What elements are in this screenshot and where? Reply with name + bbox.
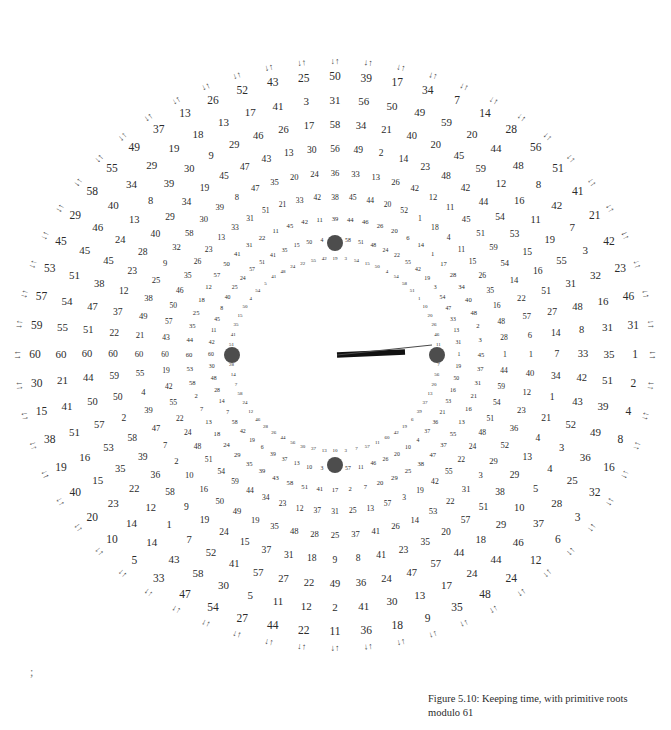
ring-number: 44 xyxy=(267,619,279,631)
ring-number: 18 xyxy=(193,128,205,140)
ring-number: 34 xyxy=(422,84,434,96)
ring-number: 41 xyxy=(316,485,323,492)
ring-arrow-pair: ↓↑ xyxy=(515,110,528,123)
ring-number: 58 xyxy=(165,486,175,497)
ring-number: 1 xyxy=(166,519,171,530)
ring-number: 26 xyxy=(194,257,202,266)
ring-number: 36 xyxy=(356,577,367,588)
ring-number: 49 xyxy=(129,141,141,153)
ring-arrow-pair: ↓↑ xyxy=(71,521,84,534)
ring-number: 40 xyxy=(151,228,161,239)
ring-number: 15 xyxy=(36,405,48,417)
ring-number: 37 xyxy=(262,544,272,555)
ring-number: 57 xyxy=(431,558,442,569)
ring-number: 47 xyxy=(251,183,260,193)
ring-number: 59 xyxy=(441,116,453,128)
ring-number: 1 xyxy=(503,350,507,359)
ring-number: 50 xyxy=(329,70,341,82)
ring-number: 7 xyxy=(187,534,192,545)
ring-number: 60 xyxy=(82,348,93,359)
ring-number: 46 xyxy=(253,130,264,141)
ring-number: 16 xyxy=(79,451,91,463)
ring-number: 47 xyxy=(445,305,451,311)
ring-number: 51 xyxy=(479,501,489,512)
ring-number: 9 xyxy=(208,150,213,161)
double-arrow-icon: ↓↑ xyxy=(297,57,307,68)
ring-number: 34 xyxy=(262,493,270,502)
ring-number: 57 xyxy=(214,271,221,278)
ring-number: 45 xyxy=(55,235,67,247)
ring-arrow-pair: ↓↑ xyxy=(200,617,212,630)
ring-number: 13 xyxy=(217,233,225,242)
ring-number: 38 xyxy=(495,486,505,497)
ring-number: 57 xyxy=(461,514,471,525)
figure-caption: Figure 5.10: Keeping time, with primitiv… xyxy=(428,692,644,720)
ring-number: 24 xyxy=(469,442,477,451)
ring-number: 55 xyxy=(170,398,178,407)
ring-number: 48 xyxy=(572,301,583,312)
ring-number: 32 xyxy=(589,486,601,498)
ring-number: 20 xyxy=(391,227,398,234)
ring-number: 7 xyxy=(570,221,576,233)
ring-number: 35 xyxy=(487,286,495,295)
ring-number: 8 xyxy=(235,192,239,202)
ring-number: 3 xyxy=(479,336,483,343)
ring-number: 19 xyxy=(200,514,210,525)
ring-number: 3 xyxy=(402,493,406,502)
ring-number: 19 xyxy=(249,437,255,443)
ring-number: 29 xyxy=(165,211,175,222)
ring-number: 17 xyxy=(332,486,339,493)
double-arrow-icon: ↓↑ xyxy=(53,496,66,509)
ring-number: 52 xyxy=(566,419,577,430)
ring-number: 42 xyxy=(209,339,215,345)
ring-number: 23 xyxy=(615,262,627,274)
ring-number: 42 xyxy=(322,256,328,261)
ring-number: 50 xyxy=(113,391,123,402)
double-arrow-icon: ↓↑ xyxy=(263,61,274,73)
ring-number: 16 xyxy=(465,405,472,412)
ring-number: 42 xyxy=(394,430,400,435)
ring-number: 60 xyxy=(29,348,41,360)
ring-number: 9 xyxy=(163,258,167,268)
double-arrow-icon: ↓↑ xyxy=(619,229,632,241)
ring-number: 49 xyxy=(139,311,148,321)
ring-number: 15 xyxy=(365,261,371,266)
ring-number: 7 xyxy=(200,405,204,412)
ring-number: 21 xyxy=(541,412,551,423)
ring-number: 4 xyxy=(626,405,632,417)
ring-number: 19 xyxy=(55,461,67,473)
ring-arrow-pair: ↓↑ xyxy=(263,61,274,73)
ring-number: 48 xyxy=(211,375,217,381)
ring-number: 50 xyxy=(223,260,230,267)
ring-arrow-pair: ↓↑ xyxy=(231,629,243,641)
ring-number: 37 xyxy=(153,123,165,135)
ring-number: 44 xyxy=(500,366,508,375)
ring-number: 46 xyxy=(255,417,261,422)
ring-number: 18 xyxy=(214,430,221,437)
ring-number: 11 xyxy=(211,327,217,333)
ring-number: 47 xyxy=(240,161,250,172)
stray-semicolon-mark: ; xyxy=(30,666,33,678)
ring-number: 50 xyxy=(453,375,459,381)
ring-number: 12 xyxy=(248,409,254,414)
ring-number: 57 xyxy=(345,465,351,471)
ring-number: 13 xyxy=(522,451,532,462)
ring-number: 43 xyxy=(168,553,180,565)
ring-number: 23 xyxy=(205,245,213,254)
ring-arrow-pair: ↓↑ xyxy=(116,130,129,143)
double-arrow-icon: ↓↑ xyxy=(648,351,658,360)
double-arrow-icon: ↓↑ xyxy=(646,319,657,329)
ring-arrow-pair: ↓↑ xyxy=(142,110,155,123)
ring-arrow-pair: ↓↑ xyxy=(12,351,22,360)
figure-container: 6059575345295855493713265243255039173471… xyxy=(0,0,671,700)
ring-number: 26 xyxy=(478,271,486,280)
ring-number: 14 xyxy=(418,241,425,248)
ring-number: 55 xyxy=(445,467,453,476)
ring-number: 12 xyxy=(145,502,156,513)
ring-number: 13 xyxy=(458,418,465,425)
ring-number: 47 xyxy=(87,301,98,312)
ring-number: 28 xyxy=(310,529,319,539)
dot-9 xyxy=(224,347,240,363)
ring-number: 57 xyxy=(253,567,264,578)
ring-number: 25 xyxy=(152,275,161,285)
